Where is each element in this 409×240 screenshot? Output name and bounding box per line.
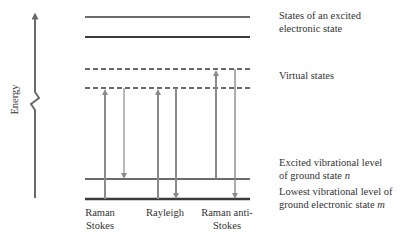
excited-electronic-label-line1: States of an excited	[279, 9, 361, 22]
excited-electronic-label: States of an excited electronic state	[279, 9, 361, 35]
raman-anti-stokes-label: Raman anti- Stokes	[194, 206, 260, 232]
rayleigh-transitions	[158, 88, 176, 199]
excited-vibrational-label-line2: of ground state n	[279, 169, 382, 182]
lowest-vibrational-label-line2: ground electronic state m	[279, 198, 392, 211]
energy-axis-arrow	[31, 16, 39, 198]
lowest-vibrational-label: Lowest vibrational level of ground elect…	[279, 185, 392, 211]
excited-vibrational-label: Excited vibrational level of ground stat…	[279, 156, 382, 182]
state-variable-m: m	[377, 199, 385, 210]
excited-electronic-label-line2: electronic state	[279, 22, 361, 35]
excited-vibrational-label-line1: Excited vibrational level	[279, 156, 382, 169]
virtual-states-label: Virtual states	[279, 69, 334, 82]
rayleigh-label: Rayleigh	[140, 206, 190, 219]
lowest-vibrational-label-line1: Lowest vibrational level of	[279, 185, 392, 198]
energy-axis-label: Energy	[9, 80, 20, 120]
raman-stokes-transitions	[105, 88, 124, 199]
raman-stokes-label: Raman Stokes	[78, 206, 122, 232]
state-variable-n: n	[345, 170, 350, 181]
